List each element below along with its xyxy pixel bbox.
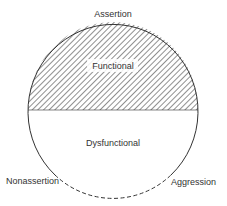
functional-region bbox=[28, 22, 198, 196]
label-aggression: Aggression bbox=[171, 177, 216, 187]
label-functional: Functional bbox=[92, 61, 134, 71]
label-dysfunctional: Dysfunctional bbox=[86, 138, 140, 148]
circle-outline-dashed bbox=[55, 175, 171, 198]
label-assertion: Assertion bbox=[94, 9, 132, 19]
assertion-circle-diagram: Assertion Functional Dysfunctional Nonas… bbox=[0, 0, 227, 206]
label-nonassertion: Nonassertion bbox=[6, 176, 59, 186]
